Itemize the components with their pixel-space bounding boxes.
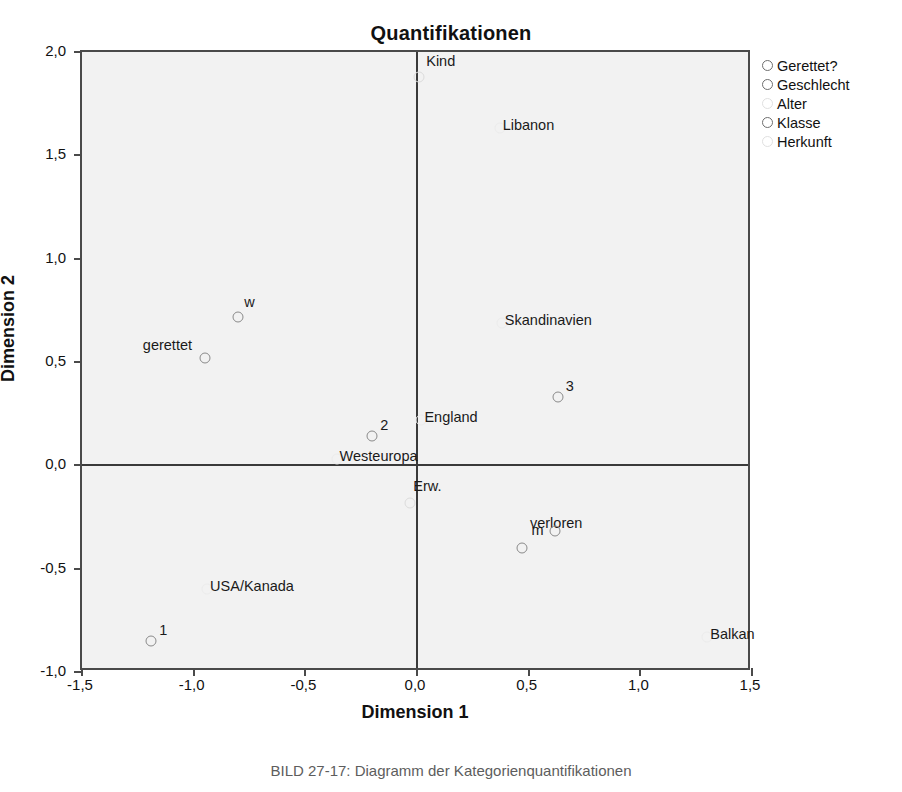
x-tick-label: 1,5 xyxy=(740,676,761,693)
legend-item: Geschlecht xyxy=(762,75,896,94)
legend-item: Alter xyxy=(762,94,896,113)
legend-marker-circle-icon xyxy=(762,98,773,109)
y-tick-mark xyxy=(74,568,82,570)
data-point xyxy=(367,431,378,442)
x-tick-label: 0,0 xyxy=(405,676,426,693)
zero-line-horizontal xyxy=(82,464,748,466)
y-tick-mark xyxy=(74,361,82,363)
y-tick-label: -0,5 xyxy=(0,558,66,575)
y-tick-mark xyxy=(74,464,82,466)
x-tick-mark xyxy=(639,668,641,676)
data-point-label: Westeuropa xyxy=(340,449,418,464)
y-tick-mark xyxy=(74,258,82,260)
data-point-label: Erw. xyxy=(413,479,441,494)
x-tick-mark xyxy=(416,668,418,676)
data-point xyxy=(405,497,416,508)
legend-marker-circle-icon xyxy=(762,60,773,71)
legend-item-label: Alter xyxy=(777,96,807,112)
plot-area: gerettetverlorenwmKindErw.123LibanonSkan… xyxy=(80,50,750,670)
figure-caption: BILD 27-17: Diagramm der Kategorienquant… xyxy=(0,762,902,779)
data-point-label: England xyxy=(424,410,477,425)
data-point xyxy=(146,636,157,647)
data-point xyxy=(199,352,210,363)
legend-item: Klasse xyxy=(762,113,896,132)
legend-marker-circle-icon xyxy=(762,117,773,128)
data-point-label: Skandinavien xyxy=(505,313,592,328)
x-tick-label: -1,5 xyxy=(67,676,93,693)
x-tick-label: 1,0 xyxy=(628,676,649,693)
chart-title: Quantifikationen xyxy=(0,22,902,45)
x-axis-title: Dimension 1 xyxy=(80,702,750,723)
legend-item-label: Klasse xyxy=(777,115,821,131)
legend-item-label: Geschlecht xyxy=(777,77,850,93)
y-tick-mark xyxy=(74,154,82,156)
legend-item: Herkunft xyxy=(762,132,896,151)
data-point-label: 3 xyxy=(566,379,574,394)
data-point-label: Libanon xyxy=(503,118,555,133)
x-tick-mark xyxy=(81,668,83,676)
legend-marker-circle-icon xyxy=(762,79,773,90)
y-tick-label: 2,0 xyxy=(0,42,66,59)
data-point-label: w xyxy=(244,295,254,310)
y-axis-title: Dimension 2 xyxy=(0,199,19,459)
data-point xyxy=(516,543,527,554)
y-tick-label: -1,0 xyxy=(0,662,66,679)
data-point xyxy=(233,311,244,322)
x-tick-label: -1,0 xyxy=(179,676,205,693)
data-point-label: Kind xyxy=(426,54,455,69)
legend: Gerettet?GeschlechtAlterKlasseHerkunft xyxy=(762,56,896,151)
x-tick-mark xyxy=(193,668,195,676)
zero-line-vertical xyxy=(416,52,418,668)
x-tick-label: 0,5 xyxy=(516,676,537,693)
legend-marker-circle-icon xyxy=(762,136,773,147)
data-point xyxy=(414,71,425,82)
data-point-label: gerettet xyxy=(143,338,192,353)
y-tick-label: 1,5 xyxy=(0,145,66,162)
x-tick-mark xyxy=(751,668,753,676)
data-point-label: Balkan xyxy=(710,627,754,642)
data-point xyxy=(552,392,563,403)
legend-item-label: Gerettet? xyxy=(777,58,837,74)
data-point-label: USA/Kanada xyxy=(210,579,294,594)
x-tick-mark xyxy=(304,668,306,676)
data-point xyxy=(550,526,561,537)
legend-item: Gerettet? xyxy=(762,56,896,75)
data-point-label: m xyxy=(531,523,543,538)
x-tick-mark xyxy=(528,668,530,676)
data-point-label: 1 xyxy=(159,623,167,638)
figure-container: Quantifikationen gerettetverlorenwmKindE… xyxy=(0,0,902,792)
y-tick-mark xyxy=(74,51,82,53)
data-point-label: 2 xyxy=(380,418,388,433)
x-tick-label: -0,5 xyxy=(290,676,316,693)
legend-item-label: Herkunft xyxy=(777,134,832,150)
